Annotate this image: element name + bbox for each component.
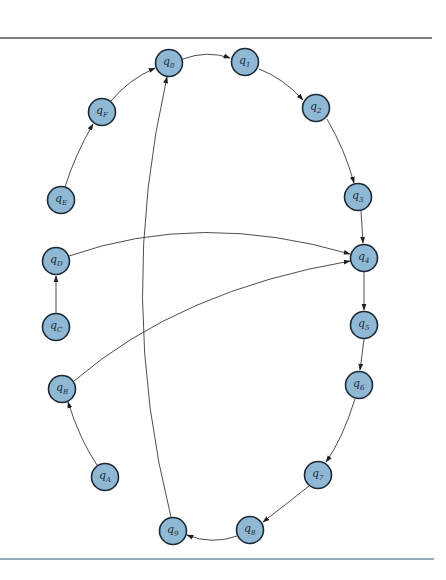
node-qA: qA — [92, 464, 119, 491]
node-q8: q8 — [237, 517, 264, 544]
edge-q1-to-q2 — [259, 69, 303, 100]
edge-q9-to-q0 — [142, 77, 171, 517]
edge-qF-to-q0 — [111, 68, 155, 101]
edge-q2-to-q3 — [327, 119, 354, 183]
edge-q8-to-q9 — [187, 535, 237, 540]
node-q1: q1 — [232, 49, 259, 76]
edge-q6-to-q7 — [326, 399, 355, 462]
edge-qE-to-qF — [65, 124, 93, 187]
node-q5: q5 — [351, 312, 378, 339]
node-qF: qF — [89, 99, 116, 126]
edge-qA-to-qB — [68, 402, 97, 465]
node-q2: q2 — [303, 95, 330, 122]
node-q7: q7 — [305, 462, 332, 489]
node-q6: q6 — [346, 372, 373, 399]
edge-q0-to-q1 — [183, 54, 230, 59]
node-qB: qB — [49, 376, 76, 403]
nodes-layer: q0q1q2q3q4q5q6q7q8q9qAqBqCqDqEqF — [43, 49, 378, 545]
edge-qD-to-q4 — [69, 232, 350, 256]
node-qC: qC — [43, 314, 70, 341]
node-q9: q9 — [160, 518, 187, 545]
node-qD: qD — [43, 248, 70, 275]
edge-q7-to-q8 — [263, 486, 309, 522]
edge-q3-to-q4 — [361, 211, 363, 243]
state-diagram: q0q1q2q3q4q5q6q7q8q9qAqBqCqDqEqF — [0, 0, 446, 580]
edge-q5-to-q6 — [360, 339, 364, 370]
node-q0: q0 — [156, 50, 183, 77]
node-q4: q4 — [351, 245, 378, 272]
node-q3: q3 — [345, 184, 372, 211]
edge-qB-to-q4 — [74, 261, 350, 381]
node-qE: qE — [48, 187, 75, 214]
